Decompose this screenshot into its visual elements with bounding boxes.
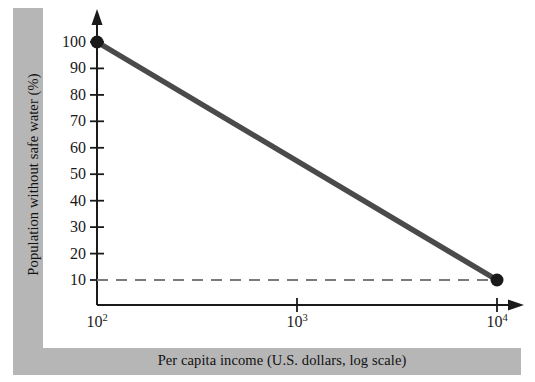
y-tick-label: 40 — [42, 193, 86, 209]
y-tick-label: 60 — [42, 140, 86, 156]
data-point-marker-start — [91, 36, 104, 49]
y-tick-label: 100 — [42, 34, 86, 50]
x-tick-label: 102 — [62, 314, 132, 330]
y-tick-label: 80 — [42, 87, 86, 103]
x-tick-exponent: 4 — [502, 312, 507, 323]
x-axis-arrowhead — [508, 300, 524, 311]
y-tick-label: 90 — [42, 60, 86, 76]
x-tick-mantissa: 10 — [86, 313, 102, 330]
x-tick-label: 104 — [462, 314, 532, 330]
x-tick-label: 103 — [262, 314, 332, 330]
y-tick-label: 70 — [42, 113, 86, 129]
x-tick-exponent: 3 — [302, 312, 307, 323]
x-tick-mantissa: 10 — [486, 313, 502, 330]
data-line — [97, 42, 497, 280]
y-tick-label: 50 — [42, 166, 86, 182]
y-tick-label: 20 — [42, 246, 86, 262]
y-tick-label: 30 — [42, 219, 86, 235]
x-tick-exponent: 2 — [102, 312, 107, 323]
data-point-marker-end — [491, 274, 504, 287]
x-tick-mantissa: 10 — [286, 313, 302, 330]
y-axis-arrowhead — [92, 9, 103, 25]
y-tick-label: 10 — [42, 272, 86, 288]
chart-figure: Population without safe water (%) Per ca… — [0, 0, 535, 382]
